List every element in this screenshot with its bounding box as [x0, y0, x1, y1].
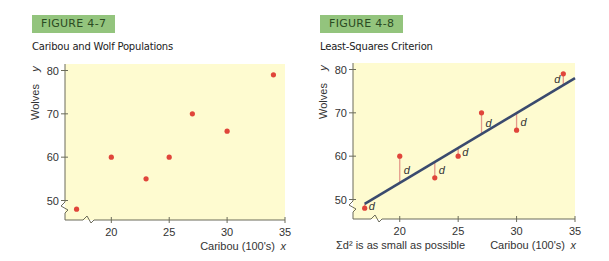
x-axis-var: x — [570, 239, 577, 251]
x-tick-label: 35 — [569, 225, 581, 237]
residual-label: d — [404, 164, 411, 176]
y-tick-label: 80 — [47, 65, 59, 77]
plot-area — [353, 63, 575, 219]
x-tick-label: 25 — [163, 226, 175, 238]
x-tick-label: 30 — [510, 225, 522, 237]
x-axis-var: x — [280, 240, 287, 252]
data-point — [432, 175, 437, 180]
charts-canvas: 2025303550607080Caribou (100's)xWolvesy … — [0, 0, 609, 261]
x-axis-label: Caribou (100's) — [490, 239, 565, 251]
y-axis-var: y — [29, 65, 41, 73]
y-tick-label: 70 — [335, 107, 347, 119]
residual-label: d — [554, 73, 561, 85]
data-point — [109, 155, 114, 160]
sum-squares-annotation: Σd² is as small as possible — [336, 239, 465, 251]
y-tick-label: 60 — [335, 150, 347, 162]
y-axis-var: y — [317, 64, 329, 72]
data-point — [225, 129, 230, 134]
x-axis-label: Caribou (100's) — [200, 240, 275, 252]
y-axis-label: Wolves — [29, 84, 41, 120]
data-point — [397, 154, 402, 159]
y-tick-label: 70 — [47, 108, 59, 120]
data-point — [514, 128, 519, 133]
x-tick-label: 20 — [394, 225, 406, 237]
y-axis-label: Wolves — [317, 83, 329, 119]
x-tick-label: 20 — [105, 226, 117, 238]
x-tick-label: 35 — [279, 226, 291, 238]
x-tick-label: 30 — [221, 226, 233, 238]
y-tick-label: 50 — [47, 195, 59, 207]
x-tick-label: 25 — [452, 225, 464, 237]
chart-least-squares: 2025303550607080Caribou (100's)xWolvesyd… — [317, 63, 581, 251]
data-point — [362, 206, 367, 211]
residual-label: d — [486, 117, 493, 129]
y-tick-label: 60 — [47, 151, 59, 163]
data-point — [143, 176, 148, 181]
data-point — [271, 72, 276, 77]
residual-label: d — [521, 116, 528, 128]
residual-label: d — [369, 200, 376, 212]
residual-label: d — [462, 146, 469, 158]
residual-label: d — [439, 164, 446, 176]
y-tick-label: 80 — [335, 64, 347, 76]
data-point — [74, 207, 79, 212]
data-point — [456, 154, 461, 159]
data-point — [479, 110, 484, 115]
y-tick-label: 50 — [335, 194, 347, 206]
chart-caribou-wolf: 2025303550607080Caribou (100's)xWolvesy — [29, 64, 291, 252]
data-point — [167, 155, 172, 160]
data-point — [190, 111, 195, 116]
data-point — [561, 71, 566, 76]
plot-area — [65, 64, 285, 220]
